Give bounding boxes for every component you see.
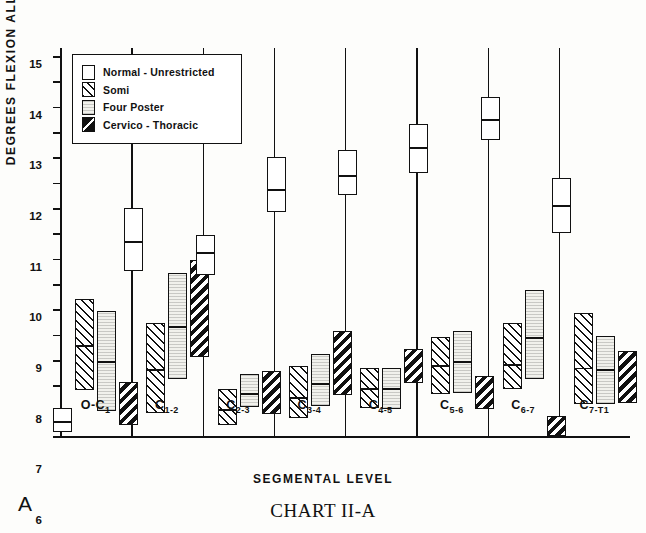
range-bar [124, 208, 143, 271]
y-tick-mark: 7 [53, 259, 60, 261]
mean-line [268, 189, 285, 191]
mean-line [597, 369, 614, 371]
mean-line [432, 365, 449, 367]
mean-line [504, 364, 521, 366]
y-tick-mark: 12 [53, 132, 60, 134]
x-tick-label-sub: 4-5 [378, 405, 392, 415]
y-tick-mark: 14 [53, 81, 60, 83]
y-tick-mark: 13 [53, 107, 60, 109]
legend-item: Four Poster [82, 100, 232, 115]
mean-line [410, 147, 427, 149]
mean-line [575, 368, 592, 370]
legend-label: Normal - Unrestricted [103, 66, 215, 78]
y-tick-label: 14 [29, 109, 42, 121]
legend-item: Somi [82, 82, 232, 97]
mean-line [482, 119, 499, 121]
mean-line [197, 252, 214, 254]
y-tick-mark: 15 [53, 56, 60, 58]
chart-figure: DEGREES FLEXION ALLOWED 0123456789101112… [0, 0, 646, 533]
x-axis-title: SEGMENTAL LEVEL [0, 472, 646, 486]
range-bar [338, 150, 357, 196]
range-bar [481, 97, 500, 140]
mean-line [526, 337, 543, 339]
y-tick-label: 12 [29, 210, 42, 222]
y-tick-mark: 0 [53, 436, 60, 438]
mean-line [125, 241, 142, 243]
x-tick-label-sub: 1 [105, 405, 110, 415]
legend-swatch-cervico [82, 117, 95, 132]
y-tick-label: 8 [36, 413, 42, 425]
legend-label: Cervico - Thoracic [103, 119, 198, 131]
x-tick-label-sub: 3-4 [307, 405, 321, 415]
y-tick-label: 15 [29, 58, 42, 70]
mean-line [383, 388, 400, 390]
range-bar [75, 299, 94, 390]
bar-group [488, 48, 559, 436]
x-tick-label: C1-2 [155, 398, 179, 415]
range-bar [453, 331, 472, 393]
x-tick-label: O-C1 [81, 398, 111, 415]
legend-label: Four Poster [103, 101, 164, 113]
x-axis-line [60, 436, 630, 438]
mean-line [361, 388, 378, 390]
bar-group [416, 48, 487, 436]
bar-group [274, 48, 345, 436]
x-tick-label: C4-5 [369, 398, 393, 415]
range-bar [409, 124, 428, 172]
y-axis-title: DEGREES FLEXION ALLOWED [4, 0, 18, 168]
x-tick-label-base: O-C [81, 398, 105, 412]
y-tick-mark: 9 [53, 208, 60, 210]
y-tick-mark: 5 [53, 309, 60, 311]
range-bar [267, 157, 286, 211]
mean-line [169, 326, 186, 328]
panel-letter: A [18, 492, 32, 516]
legend: Normal - UnrestrictedSomiFour PosterCerv… [72, 54, 242, 144]
x-tick-label-sub: 5-6 [449, 405, 463, 415]
bar-group [345, 48, 416, 436]
y-tick-mark: 2 [53, 385, 60, 387]
legend-swatch-normal [82, 65, 95, 80]
range-bar [574, 313, 593, 404]
y-tick-label: 13 [29, 159, 42, 171]
range-bar [53, 408, 72, 432]
mean-line [312, 383, 329, 385]
bar-group [559, 48, 630, 436]
mean-line [454, 361, 471, 363]
y-tick-mark: 11 [53, 157, 60, 159]
y-tick-mark: 6 [53, 284, 60, 286]
y-tick-label: 9 [36, 362, 42, 374]
range-bar [618, 351, 637, 403]
mean-line [54, 421, 71, 423]
x-tick-label: C5-6 [440, 398, 464, 415]
range-bar [196, 235, 215, 276]
y-tick-label: 10 [29, 311, 42, 323]
range-bar [97, 311, 116, 411]
legend-swatch-somi [82, 82, 95, 97]
legend-item: Normal - Unrestricted [82, 65, 232, 80]
range-bar [431, 337, 450, 394]
range-bar [168, 273, 187, 379]
range-bar [525, 290, 544, 379]
x-tick-label: C2-3 [226, 398, 250, 415]
chart-caption-text: CHART II-A [270, 500, 375, 521]
x-tick-label: C6-7 [511, 398, 535, 415]
y-tick-mark: 10 [53, 183, 60, 185]
legend-swatch-four [82, 100, 95, 115]
mean-line [98, 361, 115, 363]
mean-line [147, 369, 164, 371]
x-tick-label: C7-T1 [580, 398, 610, 415]
mean-line [553, 205, 570, 207]
range-bar [596, 336, 615, 404]
x-tick-label: C3-4 [298, 398, 322, 415]
y-tick-mark: 8 [53, 233, 60, 235]
chart-caption: CHART II-A [0, 500, 646, 522]
mean-line [241, 393, 258, 395]
mean-line [339, 175, 356, 177]
y-tick-mark: 3 [53, 360, 60, 362]
y-tick-label: 11 [30, 261, 42, 273]
x-tick-label-sub: 6-7 [521, 405, 535, 415]
legend-item: Cervico - Thoracic [82, 117, 232, 132]
range-bar [552, 178, 571, 234]
x-tick-label-sub: 1-2 [164, 405, 178, 415]
mean-line [76, 345, 93, 347]
